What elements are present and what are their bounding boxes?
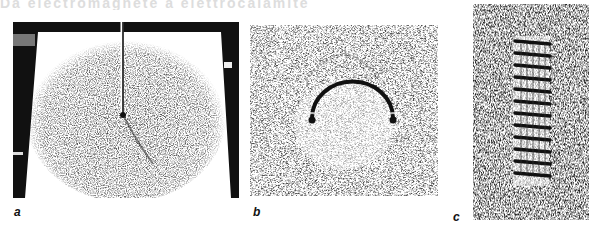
panel-label-b: b	[253, 205, 260, 219]
figure-panel-c	[473, 4, 589, 220]
panel-label-a: a	[14, 205, 21, 219]
figure-panel-b	[250, 25, 438, 196]
solenoid-filings-image	[473, 4, 589, 220]
semicircular-loop-filings-image	[250, 25, 438, 196]
figure-panel-a	[13, 22, 239, 198]
panel-label-c: c	[453, 210, 460, 224]
straight-wire-filings-image	[13, 22, 239, 198]
